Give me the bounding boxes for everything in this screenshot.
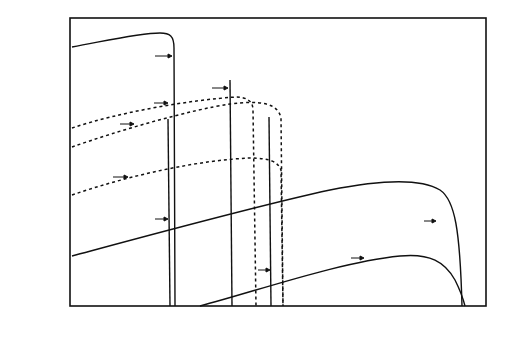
label-b8	[0, 0, 436, 223]
label-n13	[0, 0, 168, 105]
label-pp	[155, 54, 172, 58]
series-labels	[0, 0, 436, 272]
be7-0384-line	[168, 119, 170, 306]
plot-frame	[70, 18, 486, 306]
f17-curve	[72, 158, 283, 306]
label-pep	[258, 268, 270, 272]
be7-0862-line	[230, 80, 232, 306]
solar-neutrino-chart	[0, 0, 506, 337]
label-be7-top	[0, 0, 228, 90]
curves	[72, 33, 465, 306]
dashed-curves	[72, 97, 283, 306]
pp-curve	[72, 33, 175, 306]
pep-line	[269, 117, 271, 306]
hep-curve	[200, 255, 465, 306]
label-f17	[0, 0, 128, 179]
n13-curve	[72, 97, 256, 306]
label-hep	[351, 256, 364, 260]
o15-curve	[72, 102, 283, 306]
label-o15	[0, 0, 134, 126]
